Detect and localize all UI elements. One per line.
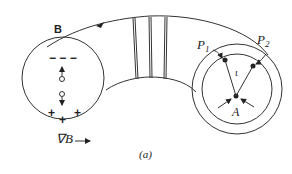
positive-charge-3: + [74, 106, 81, 120]
ion-upper-icon [60, 77, 65, 82]
torus-inner-arc [106, 77, 196, 92]
positive-charge-2: + [59, 113, 66, 127]
arrow-to-a-left-icon [218, 99, 231, 108]
coil-rings [133, 17, 167, 79]
grad-b-label: ∇B [56, 131, 73, 146]
negative-charges: − − − [49, 51, 77, 65]
axis-a-label: A [231, 105, 240, 119]
figure-caption: (a) [139, 148, 152, 161]
left-cross-section [22, 37, 104, 119]
p1-label: P1 [196, 37, 209, 54]
torus-outer-arc [47, 16, 268, 55]
toroidal-drift-diagram: − − − + + + B ∇B P1 P2 ι A (a) [0, 0, 292, 174]
rotational-transform-label: ι [235, 67, 238, 78]
arrow-to-a-right-icon [241, 99, 254, 107]
positive-charge-1: + [48, 106, 55, 120]
b-field-label: B [54, 23, 62, 35]
ion-lower-icon [60, 92, 65, 97]
p2-label: P2 [256, 32, 270, 49]
right-cross-section-outer [192, 44, 282, 134]
